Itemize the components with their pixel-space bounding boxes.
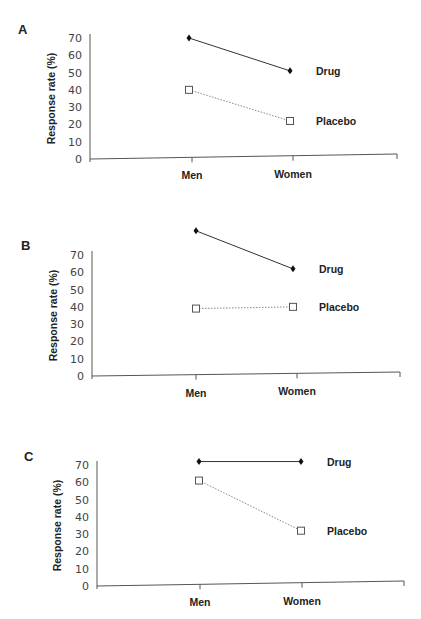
y-tick-label: 40 [70,301,84,314]
category-label-men: Men [182,169,203,181]
square-marker-icon [193,305,200,312]
category-label-women: Women [278,385,316,397]
y-tick-label: 40 [68,84,82,97]
x-axis [97,581,404,586]
y-tick-label: 50 [68,67,82,80]
y-tick-label: 50 [70,284,84,297]
series-label-placebo: Placebo [327,525,367,537]
panel-b-chart: B010203040506070Response rate (%)MenWome… [21,227,400,398]
x-axis [90,154,397,159]
series-label-placebo: Placebo [316,115,356,127]
square-marker-icon [287,117,294,124]
y-tick-label: 10 [75,563,89,576]
panel-letter: B [21,238,30,253]
y-tick-label: 70 [68,32,82,45]
series-label-drug: Drug [327,456,352,468]
series-label-drug: Drug [316,65,341,77]
square-marker-icon [186,86,193,93]
y-tick-label: 30 [68,101,82,114]
x-axis [92,372,400,377]
series-label-drug: Drug [319,263,344,275]
y-tick-label: 0 [82,580,89,593]
y-tick-label: 60 [68,49,82,62]
y-tick-label: 60 [75,476,89,489]
drug-line [189,38,290,71]
y-tick-label: 50 [75,494,89,507]
diamond-marker-icon [187,35,192,42]
diamond-marker-icon [197,458,202,465]
y-tick-label: 10 [68,136,82,149]
category-label-men: Men [190,596,211,608]
diamond-marker-icon [194,227,199,234]
category-label-women: Women [283,595,321,607]
y-tick-label: 40 [75,511,89,524]
diamond-marker-icon [291,265,296,272]
y-axis-title: Response rate (%) [51,480,63,572]
panel-letter: A [18,22,28,37]
y-tick-label: 70 [75,459,89,472]
diamond-marker-icon [299,458,304,465]
panel-letter: C [24,449,34,464]
y-tick-label: 0 [75,153,82,166]
y-tick-label: 30 [75,528,89,541]
square-marker-icon [298,527,305,534]
y-axis-title: Response rate (%) [45,53,57,145]
y-tick-label: 20 [68,118,82,131]
square-marker-icon [196,477,203,484]
y-tick-label: 0 [77,370,84,383]
y-axis-title: Response rate (%) [47,270,59,362]
y-tick-label: 60 [70,266,84,279]
category-label-men: Men [186,387,207,399]
y-tick-label: 20 [70,335,84,348]
square-marker-icon [290,303,297,310]
y-tick-label: 20 [75,545,89,558]
placebo-line [199,481,301,531]
y-tick-label: 10 [70,353,84,366]
drug-line [196,231,293,269]
series-label-placebo: Placebo [319,301,359,313]
placebo-line [196,307,293,309]
placebo-line [189,90,290,121]
figure: A010203040506070Response rate (%)MenWome… [0,0,421,619]
y-tick-label: 30 [70,318,84,331]
diamond-marker-icon [288,67,293,74]
panel-a-chart: A010203040506070Response rate (%)MenWome… [18,22,397,181]
category-label-women: Women [274,168,312,180]
panel-c-chart: C010203040506070Response rate (%)MenWome… [24,449,404,608]
y-tick-label: 70 [70,249,84,262]
